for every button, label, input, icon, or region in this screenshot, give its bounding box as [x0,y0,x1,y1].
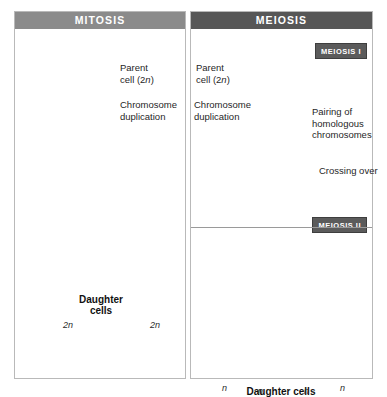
label-meiosis-parent-cell: Parent cell (2n) [196,62,230,85]
panel-mitosis: MITOSIS Parent cell (2n) Chromosome dupl… [14,11,186,379]
panel-body-meiosis: MEIOSIS I MEIOSIS II Parent cell (2n) Ch… [191,29,372,378]
daughter-line2: cells [90,305,112,316]
meiosis-parent-cell-line1: Parent [196,62,224,73]
ploidy-label-daughter-right: 2n [150,320,160,330]
label-crossing-over: Crossing over [319,165,378,177]
meiosis-chromosome-duplication-line2: duplication [194,111,239,122]
ploidy-label-2: n [258,386,263,396]
label-pairing-homologous-chromosomes: Pairing of homologous chromosomes [312,106,372,141]
ploidy-label-3: n [304,386,309,396]
panel-header-meiosis: MEIOSIS [191,12,372,29]
meiosis-phase-divider [191,227,372,228]
panels-container: MITOSIS Parent cell (2n) Chromosome dupl… [14,11,373,379]
label-meiosis-chromosome-duplication: Chromosome duplication [194,99,251,122]
label-mitosis-daughter-cells: Daughter cells [69,294,133,316]
label-mitosis-parent-cell: Parent cell (2n) [120,62,154,85]
ploidy-label-4: n [340,383,345,393]
panel-meiosis: MEIOSIS MEIOSIS I MEIOSIS II Parent cell… [190,11,373,379]
parent-cell-paren: ) [151,74,154,85]
panel-body-mitosis: Parent cell (2n) Chromosome duplication … [15,29,185,378]
ploidy-label-daughter-left: 2n [63,320,73,330]
chromosome-duplication-line2: duplication [120,111,165,122]
pairing-line2: homologous [312,118,364,129]
daughter-line1: Daughter [79,294,123,305]
ploidy-label-1: n [222,383,227,393]
panel-header-mitosis: MITOSIS [15,12,185,29]
pairing-line3: chromosomes [312,129,372,140]
parent-cell-line1: Parent [120,62,148,73]
pairing-line1: Pairing of [312,106,352,117]
badge-meiosis-one: MEIOSIS I [315,43,367,59]
meiosis-parent-cell-line2: cell (2 [196,74,221,85]
chromosome-duplication-line1: Chromosome [120,99,177,110]
meiosis-parent-cell-paren: ) [227,74,230,85]
meiosis-chromosome-duplication-line1: Chromosome [194,99,251,110]
badge-meiosis-two: MEIOSIS II [312,217,367,233]
parent-cell-line2: cell (2 [120,74,145,85]
label-mitosis-chromosome-duplication: Chromosome duplication [120,99,177,122]
label-meiosis-daughter-cells: Daughter cells [221,386,341,397]
